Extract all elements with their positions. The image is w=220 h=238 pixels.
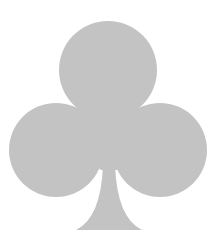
club-suit-canvas xyxy=(0,0,220,238)
club-icon xyxy=(0,0,220,238)
